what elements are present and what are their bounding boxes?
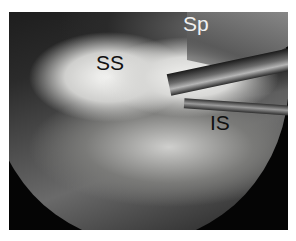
- label-supraspinatus: SS: [96, 52, 124, 73]
- arthroscopic-image: [9, 12, 288, 230]
- label-infraspinatus: IS: [210, 112, 230, 133]
- label-spine: Sp: [183, 13, 209, 34]
